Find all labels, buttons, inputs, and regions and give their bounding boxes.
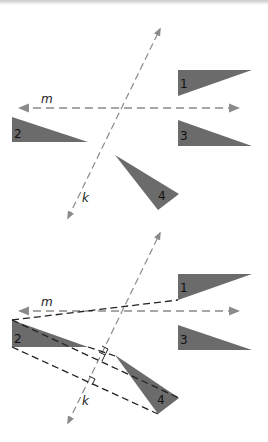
triangle-3-bottom [178,325,252,350]
triangle-4-label-bottom: 4 [157,393,165,407]
triangle-1-bottom [178,274,252,300]
triangle-3-label-bottom: 3 [180,333,188,347]
right-angle-markers [89,346,108,385]
construction-line-2-to-1 [12,300,178,320]
figure-page: 1 2 3 4 m k [0,0,268,442]
triangle-2-label-bottom: 2 [14,332,22,346]
reflection-diagram: 1 2 3 4 m k [0,0,268,442]
triangle-4-top [115,155,179,210]
triangle-2-top [12,117,88,142]
top-diagram: 1 2 3 4 m k [12,29,252,218]
triangle-1-top [178,70,252,96]
triangle-3-top [178,120,252,146]
triangle-2-label: 2 [14,127,22,141]
line-k-label: k [82,191,90,205]
line-m-label-bottom: m [41,295,53,309]
triangle-4-bottom [115,355,179,414]
triangle-2-bottom [12,320,88,347]
triangle-3-label: 3 [180,129,188,143]
line-k-label-bottom: k [82,394,90,408]
right-angle-marker-2 [99,352,105,361]
construction-line-2-to-4-mid [88,347,115,356]
triangle-1-label-bottom: 1 [180,281,188,295]
triangle-1-label: 1 [180,77,188,91]
bottom-diagram: 1 2 3 4 m k [12,233,252,423]
triangle-4-label: 4 [158,189,166,203]
line-m-label: m [41,92,53,106]
